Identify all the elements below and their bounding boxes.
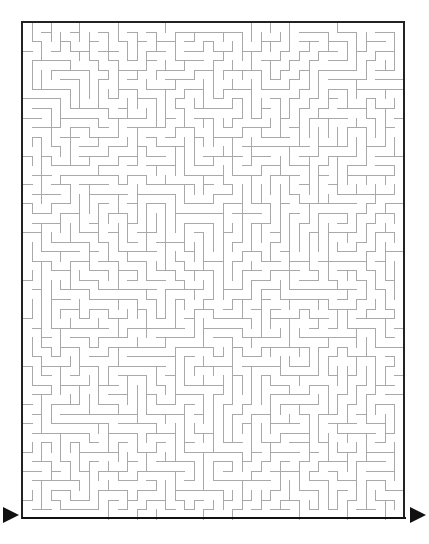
maze-page: Maze Puzzle Entrance Exit A dense rectan… (0, 0, 429, 544)
maze-figure (0, 0, 429, 544)
maze-background (0, 0, 429, 544)
